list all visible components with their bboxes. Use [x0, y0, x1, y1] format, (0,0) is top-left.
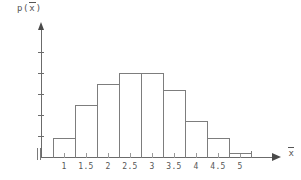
histogram-bar — [185, 121, 208, 157]
x-axis-tick — [229, 151, 230, 158]
histogram-bar — [141, 73, 164, 157]
arrow-right-icon — [272, 153, 281, 161]
x-axis-tick-label: 5 — [226, 163, 254, 171]
x-axis-tick — [86, 153, 87, 158]
axis-break-icon — [37, 148, 38, 160]
histogram-bar — [163, 90, 186, 157]
x-axis-tick — [141, 151, 142, 158]
y-axis-label-suffix: ) — [36, 3, 42, 13]
y-axis-tick — [38, 73, 44, 74]
x-axis-tick — [108, 153, 109, 158]
arrow-up-icon — [38, 22, 44, 30]
axis-break-icon — [40, 148, 41, 160]
x-axis-tick — [75, 151, 76, 158]
x-axis-tick — [251, 151, 252, 158]
y-axis-tick — [38, 94, 44, 95]
x-axis-tick — [53, 151, 54, 158]
bars-group — [0, 0, 301, 180]
x-axis-label-variable: x — [288, 148, 294, 158]
x-axis-tick — [218, 153, 219, 158]
y-axis-tick — [38, 115, 44, 116]
x-axis-tick — [64, 153, 65, 158]
histogram-bar — [75, 105, 98, 157]
x-axis-tick — [119, 151, 120, 158]
y-axis-label-variable: x — [29, 3, 36, 13]
x-axis-tick — [207, 151, 208, 158]
y-axis-tick — [38, 52, 44, 53]
x-axis-tick — [152, 153, 153, 158]
x-axis-tick — [174, 153, 175, 158]
x-axis-tick — [240, 153, 241, 158]
x-axis-tick — [196, 153, 197, 158]
x-axis-tick — [163, 151, 164, 158]
y-axis-label-prefix: p( — [17, 3, 29, 13]
x-axis-tick — [97, 151, 98, 158]
y-axis-label: p(x) — [17, 3, 42, 13]
x-axis-tick — [130, 153, 131, 158]
y-axis-tick — [38, 136, 44, 137]
histogram-bar — [97, 84, 120, 157]
x-axis-label: x — [288, 148, 294, 158]
x-axis-tick — [185, 151, 186, 158]
histogram-bar — [119, 73, 142, 157]
histogram-chart: p(x) x .05.10.15.20.25 11.522.533.544.55 — [0, 0, 301, 180]
